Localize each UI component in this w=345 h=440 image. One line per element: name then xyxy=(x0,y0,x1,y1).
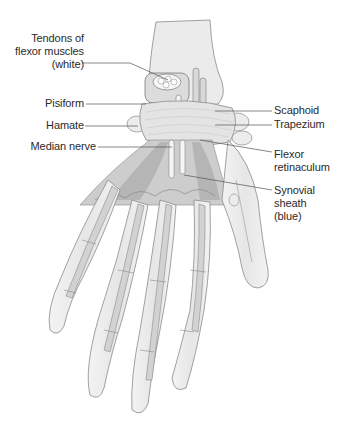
label-median-nerve: Median nerve xyxy=(10,140,96,153)
carpal-region xyxy=(127,101,252,146)
label-synovial-sheath: Synovial sheath (blue) xyxy=(274,184,315,223)
thumb xyxy=(222,140,268,288)
label-line: Tendons of xyxy=(20,32,84,45)
fingers xyxy=(49,180,210,413)
label-line: (white) xyxy=(20,58,84,71)
label-line: flexor muscles xyxy=(4,45,84,58)
label-scaphoid: Scaphoid xyxy=(274,104,319,117)
label-hamate: Hamate xyxy=(20,119,84,132)
label-line: Synovial xyxy=(274,184,315,197)
label-line: (blue) xyxy=(274,210,315,223)
label-pisiform: Pisiform xyxy=(20,97,84,110)
label-flexor-retinaculum: Flexor retinaculum xyxy=(274,148,330,174)
label-line: retinaculum xyxy=(274,161,330,174)
label-line: Flexor xyxy=(274,148,330,161)
label-tendons-of-flexor-muscles: Tendons of flexor muscles (white) xyxy=(20,32,84,71)
label-trapezium: Trapezium xyxy=(274,118,325,131)
label-line: sheath xyxy=(274,197,315,210)
forearm xyxy=(145,20,223,110)
